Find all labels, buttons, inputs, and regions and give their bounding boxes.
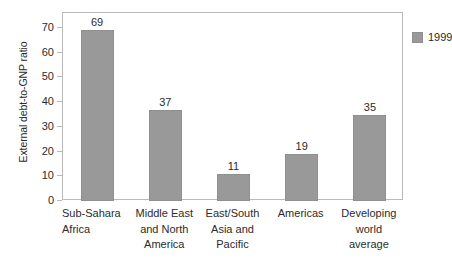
x-category-label-line: Asia and — [198, 222, 266, 238]
bar-value-label: 11 — [210, 160, 258, 172]
x-category-label-line: Middle East — [130, 206, 198, 222]
legend-swatch-1999 — [412, 32, 423, 43]
legend-label-1999: 1999 — [428, 32, 452, 43]
legend: 1999 — [412, 32, 452, 43]
x-category-label-line: world — [335, 222, 403, 238]
x-category-label-line: America — [130, 237, 198, 253]
bar — [81, 30, 114, 201]
y-tick-label: 30 — [28, 121, 54, 131]
y-tick-mark — [57, 200, 62, 201]
bar — [285, 154, 318, 201]
x-category-label-line: East/South — [198, 206, 266, 222]
bar-value-label: 19 — [278, 140, 326, 152]
bar — [217, 174, 250, 201]
x-category-label-line: Sub-Sahara — [62, 206, 130, 222]
x-category-label-line: Africa — [62, 222, 130, 238]
y-tick-label: 70 — [28, 22, 54, 32]
x-category-label-line: Developing — [335, 206, 403, 222]
bar — [149, 110, 182, 201]
y-tick-label: 50 — [28, 71, 54, 81]
x-category-label: East/SouthAsia andPacific — [198, 206, 266, 253]
y-tick-label: 40 — [28, 96, 54, 106]
y-tick-label: 60 — [28, 47, 54, 57]
y-tick-label: 20 — [28, 146, 54, 156]
x-category-label-line: Pacific — [198, 237, 266, 253]
bar-value-label: 69 — [73, 16, 121, 28]
y-tick-label: 10 — [28, 170, 54, 180]
x-category-label: Developingworldaverage — [335, 206, 403, 253]
bar-value-label: 37 — [141, 96, 189, 108]
y-tick-label: 0 — [28, 195, 54, 205]
x-category-label: Americas — [267, 206, 335, 222]
x-category-label-line: and North — [130, 222, 198, 238]
x-category-label: Middle Eastand NorthAmerica — [130, 206, 198, 253]
x-category-label: Sub-SaharaAfrica — [62, 206, 130, 237]
bar — [353, 115, 386, 202]
x-category-label-line: Americas — [267, 206, 335, 222]
plot-area: 6937111935 1999 — [62, 12, 403, 200]
bar-value-label: 35 — [346, 101, 394, 113]
x-category-label-line: average — [335, 237, 403, 253]
